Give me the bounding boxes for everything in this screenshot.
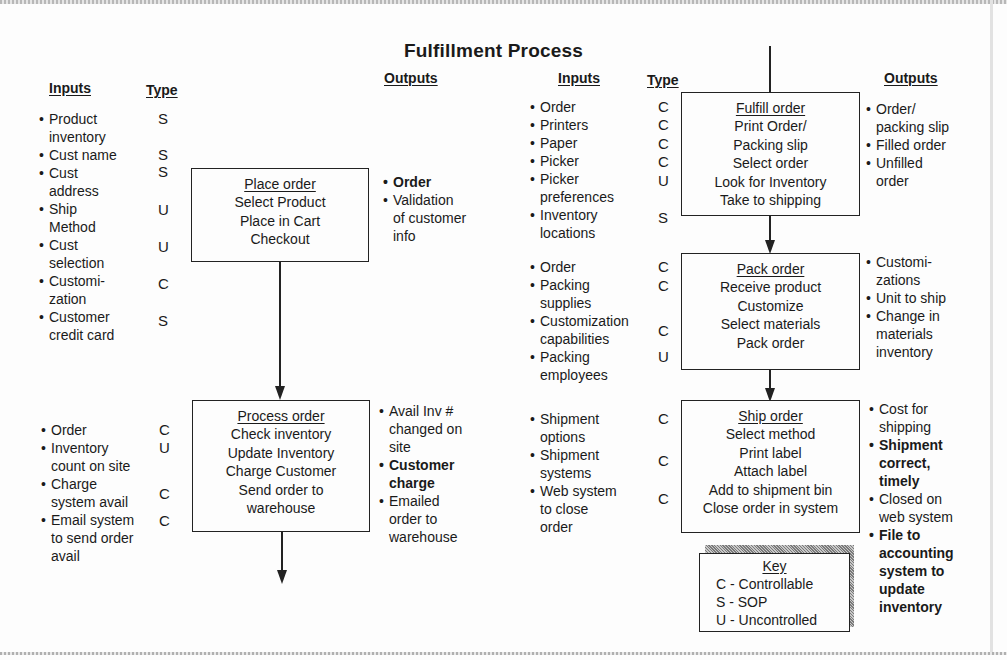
input-item: Custaddress — [39, 164, 149, 200]
input-item: Printers — [530, 116, 650, 134]
arrow-down-icon — [765, 240, 775, 254]
step-action: Update Inventory — [193, 444, 369, 462]
output-item: Emailedorder towarehouse — [379, 492, 489, 546]
step-title: Pack order — [682, 260, 859, 278]
output-item: Customi-zations — [866, 253, 986, 289]
step-action: Close order in system — [682, 499, 859, 517]
output-item: Unit to ship — [866, 289, 986, 307]
output-item: Shipmentcorrect,timely — [869, 436, 989, 490]
fulfill-order-outputs: Order/packing slip Filled order Unfilled… — [866, 100, 986, 190]
input-item: Order — [530, 98, 650, 116]
input-item: Packingsupplies — [530, 276, 660, 312]
type-badge: U — [159, 439, 170, 457]
step-action: Customize — [682, 297, 859, 315]
place-order-outputs: Order Validationof customerinfo — [383, 173, 493, 245]
type-badge: S — [158, 312, 168, 330]
input-item: ShipMethod — [39, 200, 149, 236]
key-entry: C - Controllable — [716, 575, 849, 593]
type-badge: C — [658, 452, 669, 470]
step-title: Process order — [193, 407, 369, 425]
input-item: Productinventory — [39, 110, 149, 146]
step-action: Packing slip — [682, 136, 859, 154]
input-item: Cust name — [39, 146, 149, 164]
input-item: Custselection — [39, 236, 149, 272]
output-item: Cost forshipping — [869, 400, 989, 436]
input-item: Inventorylocations — [530, 206, 650, 242]
step-title: Ship order — [682, 407, 859, 425]
header-outputs-left: Outputs — [384, 70, 438, 86]
type-badge: U — [658, 172, 669, 190]
header-outputs-right: Outputs — [884, 70, 938, 86]
place-order-inputs: Productinventory Cust name Custaddress S… — [39, 110, 149, 344]
type-badge: C — [159, 485, 170, 503]
type-badge: C — [658, 277, 669, 295]
type-badge: S — [658, 209, 668, 227]
process-box-process-order: Process order Check inventory Update Inv… — [192, 400, 370, 532]
flow-connector — [279, 262, 281, 388]
input-item: Customercredit card — [39, 308, 149, 344]
input-item: Packingemployees — [530, 348, 660, 384]
arrow-down-icon — [277, 570, 287, 584]
step-action: Select order — [682, 154, 859, 172]
type-badge: C — [658, 490, 669, 508]
key-entry: S - SOP — [716, 593, 849, 611]
output-item: Order/packing slip — [866, 100, 986, 136]
type-badge: U — [658, 348, 669, 366]
output-item: Unfilledorder — [866, 154, 986, 190]
step-action: Add to shipment bin — [682, 481, 859, 499]
flow-connector — [769, 216, 771, 240]
type-badge: S — [158, 163, 168, 181]
process-box-fulfill-order: Fulfill order Print Order/ Packing slip … — [681, 92, 860, 216]
page-edge-bottom — [0, 652, 1007, 655]
output-item: File toaccountingsystem toupdateinventor… — [869, 526, 989, 616]
type-badge: C — [658, 258, 669, 276]
type-badge: C — [658, 410, 669, 428]
legend-key: Key C - Controllable S - SOP U - Uncontr… — [699, 553, 850, 632]
step-action: Print label — [682, 444, 859, 462]
step-action: Take to shipping — [682, 191, 859, 209]
arrow-down-icon — [275, 386, 285, 400]
step-action: warehouse — [193, 499, 369, 517]
input-item: Inventorycount on site — [41, 439, 161, 475]
type-badge: C — [658, 153, 669, 171]
type-badge: C — [158, 275, 169, 293]
type-badge: U — [158, 238, 169, 256]
process-box-pack-order: Pack order Receive product Customize Sel… — [681, 253, 860, 370]
flow-connector — [769, 370, 771, 390]
ship-order-outputs: Cost forshipping Shipmentcorrect,timely … — [869, 400, 989, 616]
output-item: Change inmaterialsinventory — [866, 307, 986, 361]
step-action: Pack order — [682, 334, 859, 352]
process-box-ship-order: Ship order Select method Print label Att… — [681, 400, 860, 533]
step-title: Place order — [192, 175, 368, 193]
output-item: Validationof customerinfo — [383, 191, 493, 245]
process-order-outputs: Avail Inv #changed onsite Customercharge… — [379, 402, 489, 546]
header-type-left: Type — [146, 82, 178, 98]
fulfill-order-inputs: Order Printers Paper Picker Pickerprefer… — [530, 98, 650, 242]
step-title: Fulfill order — [682, 99, 859, 117]
output-item: Filled order — [866, 136, 986, 154]
type-badge: C — [658, 135, 669, 153]
type-badge: C — [159, 512, 170, 530]
output-item: Avail Inv #changed onsite — [379, 402, 489, 456]
input-item: Order — [530, 258, 660, 276]
key-title: Key — [716, 557, 849, 575]
header-type-right: Type — [647, 72, 679, 88]
step-action: Place in Cart — [192, 212, 368, 230]
output-item: Customercharge — [379, 456, 489, 492]
page-edge-top — [0, 0, 1007, 4]
type-badge: C — [159, 421, 170, 439]
type-badge: S — [158, 146, 168, 164]
diagram-page: Fulfillment Process Inputs Type Outputs … — [0, 0, 1007, 660]
header-inputs-right: Inputs — [558, 70, 600, 86]
input-item: Order — [41, 421, 161, 439]
step-action: Print Order/ — [682, 117, 859, 135]
step-action: Send order to — [193, 481, 369, 499]
input-item: Customizationcapabilities — [530, 312, 660, 348]
type-badge: S — [158, 110, 168, 128]
input-item: Chargesystem avail — [41, 475, 161, 511]
input-item: Email systemto send orderavail — [41, 511, 161, 565]
type-badge: U — [158, 201, 169, 219]
pack-order-outputs: Customi-zations Unit to ship Change inma… — [866, 253, 986, 361]
input-item: Shipmentoptions — [530, 410, 650, 446]
step-action: Select Product — [192, 193, 368, 211]
